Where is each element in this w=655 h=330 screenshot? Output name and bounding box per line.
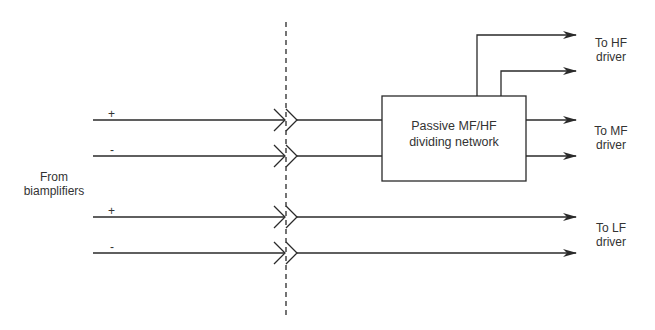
source-label-line2: biamplifiers (14, 184, 94, 198)
source-label-line1: From (14, 170, 94, 184)
plus-sign-mf-hf: + (108, 108, 115, 120)
source-label: From biamplifiers (14, 170, 94, 198)
lf-label-line2: driver (586, 235, 636, 249)
diagram-canvas: + - + - From biamplifiers Passive MF/HF … (0, 0, 655, 330)
mf-label-line2: driver (586, 138, 636, 152)
hf-driver-label: To HF driver (586, 36, 636, 64)
mf-label-line1: To MF (586, 124, 636, 138)
dividing-network-label: Passive MF/HF dividing network (382, 118, 526, 150)
diagram-wiring (0, 0, 655, 330)
lf-label-line1: To LF (586, 221, 636, 235)
minus-sign-mf-hf: - (110, 144, 114, 156)
plus-sign-lf: + (108, 205, 115, 217)
minus-sign-lf: - (110, 241, 114, 253)
lf-driver-label: To LF driver (586, 221, 636, 249)
box-label-line1: Passive MF/HF (382, 118, 526, 134)
hf-label-line1: To HF (586, 36, 636, 50)
box-label-line2: dividing network (382, 134, 526, 150)
mf-driver-label: To MF driver (586, 124, 636, 152)
hf-label-line2: driver (586, 50, 636, 64)
